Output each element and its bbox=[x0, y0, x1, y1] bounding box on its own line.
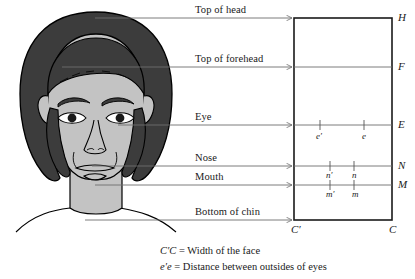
measurement-box bbox=[294, 18, 392, 220]
label-top-of-head: Top of head bbox=[195, 4, 246, 15]
label-nose: Nose bbox=[195, 152, 217, 163]
caption-text-width-of-face: = Width of the face bbox=[179, 245, 260, 256]
figure-root: Top of head Top of forehead Eye Nose Mou… bbox=[0, 0, 415, 279]
label-top-of-forehead: Top of forehead bbox=[195, 53, 263, 64]
caption-symbol-e-prime-e: e′e bbox=[160, 261, 172, 272]
caption-symbol-c-prime-c: C′C bbox=[160, 245, 176, 256]
axis-label-N: N bbox=[398, 159, 405, 171]
tick-label-nose-left: n′ bbox=[326, 170, 332, 180]
tick-label-eye-left: e′ bbox=[316, 131, 322, 141]
caption-width-of-face: C′C = Width of the face bbox=[160, 245, 260, 256]
axis-label-H: H bbox=[398, 11, 406, 23]
axis-label-M: M bbox=[398, 178, 407, 190]
corner-label-c: C bbox=[389, 223, 396, 235]
tick-label-nose-right: n bbox=[352, 170, 357, 180]
tick-label-mouth-left: m′ bbox=[326, 189, 334, 199]
label-mouth: Mouth bbox=[195, 171, 224, 182]
axis-label-E: E bbox=[398, 118, 405, 130]
caption-text-distance-between-eyes: = Distance between outsides of eyes bbox=[174, 261, 327, 272]
corner-label-c-prime: C′ bbox=[291, 223, 301, 235]
label-bottom-of-chin: Bottom of chin bbox=[195, 206, 260, 217]
tick-label-eye-right: e bbox=[362, 131, 366, 141]
measurement-lines bbox=[0, 0, 415, 279]
label-eye: Eye bbox=[195, 111, 212, 122]
tick-label-mouth-right: m bbox=[352, 189, 359, 199]
caption-distance-between-eyes: e′e = Distance between outsides of eyes bbox=[160, 261, 327, 272]
axis-label-F: F bbox=[398, 60, 405, 72]
